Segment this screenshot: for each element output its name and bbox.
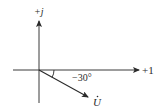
real-axis-label: +1	[142, 64, 154, 76]
phasor-label: U	[93, 96, 102, 108]
imaginary-axis-label: +j	[34, 6, 44, 17]
angle-arc	[52, 70, 54, 78]
phasor-dot-accent	[97, 96, 99, 98]
angle-label: −30°	[72, 72, 92, 83]
phasor-diagram: +1 +j −30° U	[0, 0, 159, 112]
